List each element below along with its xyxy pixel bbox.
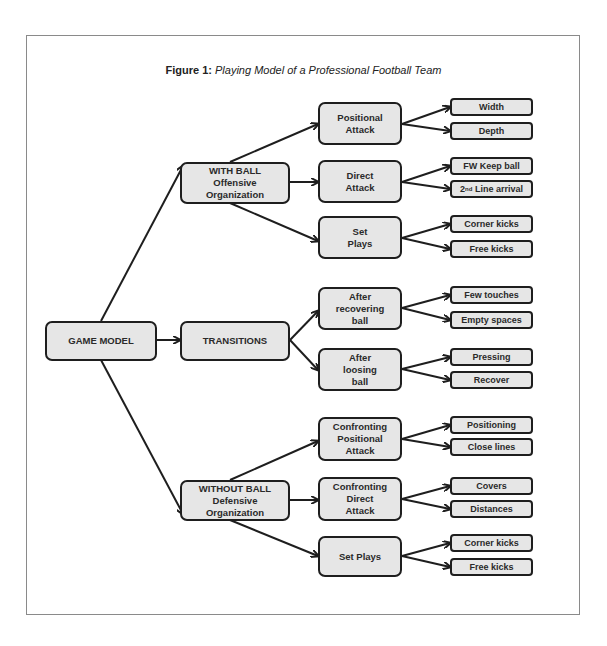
node-after-recovering: After recovering ball [318, 287, 402, 330]
node-with-ball: WITH BALL Offensive Organization [180, 162, 290, 204]
node-set-plays-defense: Set Plays [318, 536, 402, 577]
leaf-positioning: Positioning [450, 416, 533, 434]
leaf-corner-kicks-defense: Corner kicks [450, 534, 533, 552]
node-confronting-direct: Confronting Direct Attack [318, 477, 402, 521]
leaf-empty-spaces: Empty spaces [450, 311, 533, 329]
node-direct-attack: Direct Attack [318, 160, 402, 203]
node-positional-attack: Positional Attack [318, 102, 402, 145]
leaf-covers: Covers [450, 477, 533, 495]
leaf-free-kicks-defense: Free kicks [450, 558, 533, 576]
node-after-loosing: After loosing ball [318, 348, 402, 391]
leaf-close-lines: Close lines [450, 438, 533, 456]
node-transitions: TRANSITIONS [180, 321, 290, 361]
leaf-distances: Distances [450, 500, 533, 518]
leaf-free-kicks-offense: Free kicks [450, 240, 533, 258]
leaf-2nd-line-arrival: 2nd Line arrival [450, 180, 533, 198]
leaf-corner-kicks-offense: Corner kicks [450, 215, 533, 233]
leaf-2nd-rest: Line arrival [472, 184, 523, 195]
leaf-few-touches: Few touches [450, 286, 533, 304]
leaf-recover: Recover [450, 371, 533, 389]
node-set-plays-offense: Set Plays [318, 216, 402, 259]
leaf-fw-keep-ball: FW Keep ball [450, 157, 533, 175]
leaf-width: Width [450, 98, 533, 116]
leaf-pressing: Pressing [450, 348, 533, 366]
leaf-depth: Depth [450, 122, 533, 140]
node-without-ball: WITHOUT BALL Defensive Organization [180, 480, 290, 521]
node-confronting-positional: Confronting Positional Attack [318, 417, 402, 461]
node-game-model: GAME MODEL [45, 321, 157, 361]
